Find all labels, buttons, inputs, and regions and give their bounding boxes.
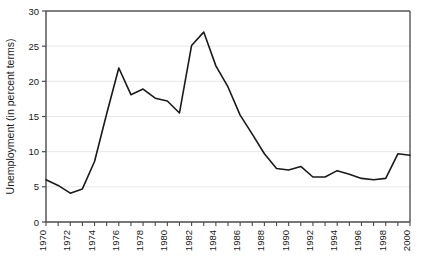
y-axis-title: Unemployment (in percent terms) bbox=[4, 39, 16, 195]
y-axis-ticks: 051015202530 bbox=[28, 6, 46, 228]
y-tick-label: 5 bbox=[34, 181, 39, 192]
data-series-line bbox=[46, 32, 410, 193]
chart-canvas: 0510152025301970197219741976197819801982… bbox=[0, 0, 421, 273]
x-tick-label: 2000 bbox=[401, 230, 412, 251]
y-tick-label: 30 bbox=[28, 6, 39, 17]
x-tick-label: 1992 bbox=[304, 230, 315, 251]
y-tick-label: 0 bbox=[34, 217, 39, 228]
y-tick-label: 15 bbox=[28, 111, 39, 122]
x-tick-label: 1990 bbox=[280, 230, 291, 251]
x-axis-ticks: 1970197219741976197819801982198419861988… bbox=[37, 222, 412, 251]
y-tick-label: 10 bbox=[28, 146, 39, 157]
y-tick-label: 25 bbox=[28, 41, 39, 52]
x-tick-label: 1998 bbox=[377, 230, 388, 251]
x-tick-label: 1976 bbox=[110, 230, 121, 251]
x-tick-label: 1982 bbox=[183, 230, 194, 251]
x-tick-label: 1996 bbox=[352, 230, 363, 251]
x-tick-label: 1994 bbox=[328, 230, 339, 251]
unemployment-line-chart: 0510152025301970197219741976197819801982… bbox=[0, 0, 421, 273]
x-tick-label: 1988 bbox=[255, 230, 266, 251]
x-tick-label: 1978 bbox=[134, 230, 145, 251]
gridlines bbox=[46, 46, 410, 187]
x-tick-label: 1984 bbox=[207, 230, 218, 251]
x-tick-label: 1980 bbox=[158, 230, 169, 251]
x-tick-label: 1986 bbox=[231, 230, 242, 251]
x-tick-label: 1974 bbox=[86, 230, 97, 251]
x-tick-label: 1972 bbox=[61, 230, 72, 251]
y-tick-label: 20 bbox=[28, 76, 39, 87]
x-tick-label: 1970 bbox=[37, 230, 48, 251]
